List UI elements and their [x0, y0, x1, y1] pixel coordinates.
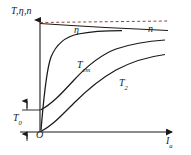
x-axis-label: Ia [166, 136, 173, 149]
chart-figure: T,η,n Ia η n Tem T2 T0 O [0, 0, 191, 155]
tem-label-base: T [77, 59, 83, 70]
t2-curve-label: T2 [119, 78, 128, 91]
t0-label-subscript: 0 [19, 119, 22, 126]
t2-label-base: T [119, 77, 125, 88]
series-tem-electromagnetic-torque [41, 40, 166, 110]
y-axis-label: T,η,n [11, 6, 32, 16]
eta-curve-label: η [74, 25, 79, 35]
series-eta-efficiency [41, 31, 122, 130]
series-t2-output-torque [41, 55, 166, 132]
origin-label: O [36, 130, 43, 140]
tem-curve-label: Tem [77, 60, 90, 73]
n-curve-label: n [148, 24, 153, 34]
t0-label-base: T [13, 112, 19, 123]
tem-label-subscript: em [83, 66, 91, 73]
t2-label-subscript: 2 [125, 84, 128, 91]
x-axis-label-subscript: a [169, 142, 172, 149]
chart-plot-area [0, 0, 191, 155]
t0-dimension-label: T0 [13, 113, 22, 126]
